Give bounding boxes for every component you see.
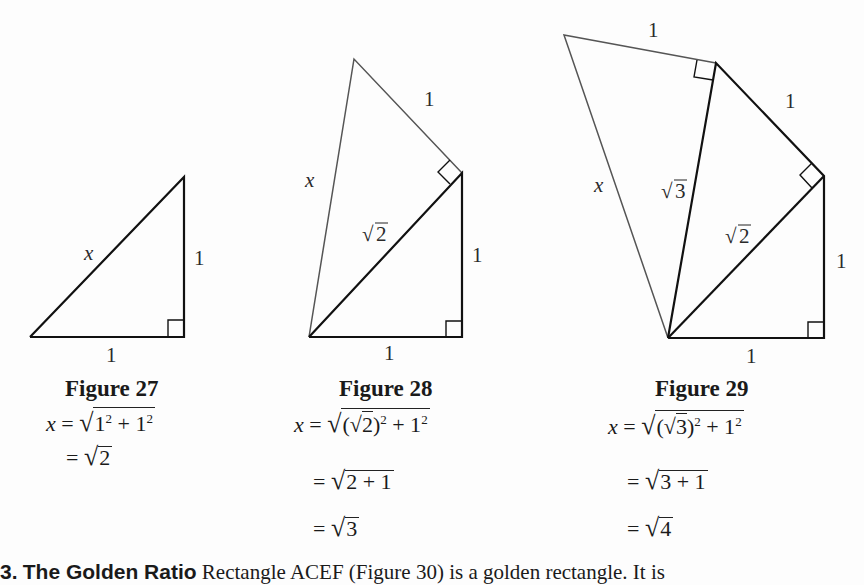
fig29-label-sqrt3-radical: √ — [661, 179, 673, 203]
next-section-heading-line: 3. The Golden Ratio Rectangle ACEF (Figu… — [0, 560, 665, 585]
fig27-equation-line1: x = √12 + 12 — [46, 407, 155, 437]
figure-28-diagram — [309, 59, 462, 337]
eq-equals: = — [309, 412, 321, 437]
radicand-term: + 1 — [706, 414, 735, 439]
fig28-equation-line1: x = √(√2)2 + 12 — [294, 408, 430, 438]
inner-radical-sign: √ — [350, 412, 362, 437]
fig27-equation-line2: = √2 — [66, 444, 112, 471]
radicand: 12 + 12 — [93, 407, 154, 435]
fig29-equation-line3: = √4 — [627, 515, 673, 542]
exponent: 2 — [421, 412, 428, 427]
fig28-label-bottom: 1 — [384, 341, 395, 365]
radicand: (√2)2 + 12 — [341, 408, 429, 436]
fig29-label-x: x — [593, 173, 604, 197]
section-heading: The Golden Ratio — [23, 560, 197, 583]
fig27-label-right: 1 — [194, 246, 205, 270]
radicand: 3 — [345, 517, 359, 540]
radicand-term: + 1 — [392, 412, 421, 437]
radical-sign: √ — [645, 466, 659, 495]
fig29-label-sqrt2: 2 — [739, 224, 750, 248]
radical-sign: √ — [79, 408, 93, 437]
fig27-label-bottom: 1 — [106, 343, 117, 367]
exponent: 2 — [694, 414, 701, 429]
figure-27-diagram — [30, 177, 184, 337]
radical-sign: √ — [641, 411, 655, 440]
radicand: 2 + 1 — [345, 470, 393, 493]
fig27-label-x: x — [83, 241, 94, 265]
fig28-equation-line3: = √3 — [313, 515, 359, 542]
fig29-label-right: 1 — [836, 249, 847, 273]
fig28-label-sqrt2: 2 — [376, 222, 387, 246]
fig29-label-bottom: 1 — [746, 344, 757, 368]
eq-equals: = — [627, 469, 639, 494]
figure-29-caption: Figure 29 — [655, 376, 748, 402]
radical-sign: √ — [84, 442, 98, 471]
eq-equals: = — [313, 516, 325, 541]
exponent: 2 — [380, 412, 387, 427]
radicand: 2 — [98, 446, 112, 469]
eq-var-x: x — [608, 414, 618, 439]
fig28-label-top: 1 — [424, 87, 435, 111]
fig29-label-top: 1 — [648, 18, 659, 42]
radical-sign: √ — [327, 409, 341, 438]
inner-radicand: 2 — [362, 411, 373, 437]
fig29-label-sqrt3: 3 — [675, 179, 686, 203]
radicand-term: 1 — [94, 411, 105, 436]
eq-var-x: x — [46, 411, 56, 436]
radicand-term: + 1 — [117, 411, 146, 436]
exponent: 2 — [146, 411, 153, 426]
eq-var-x: x — [294, 412, 304, 437]
section-body-text: Rectangle ACEF (Figure 30) is a golden r… — [202, 560, 665, 584]
radical-sign: √ — [331, 466, 345, 495]
exponent: 2 — [735, 414, 742, 429]
radical-sign: √ — [331, 513, 345, 542]
eq-equals: = — [61, 411, 73, 436]
fig29-equation-line2: = √3 + 1 — [627, 468, 708, 495]
inner-radicand: 3 — [676, 413, 687, 439]
radicand: 3 + 1 — [659, 470, 707, 493]
eq-equals: = — [66, 445, 78, 470]
fig28-label-sqrt2-radical: √ — [362, 222, 374, 246]
section-number: 3. — [0, 560, 18, 583]
figure-27-caption: Figure 27 — [65, 376, 158, 402]
radicand: (√3)2 + 12 — [655, 410, 743, 438]
fig28-label-x: x — [304, 168, 315, 192]
figure-28-caption: Figure 28 — [339, 376, 432, 402]
eq-equals: = — [627, 516, 639, 541]
fig29-label-upper-right: 1 — [785, 89, 796, 113]
inner-radical-sign: √ — [664, 414, 676, 439]
eq-equals: = — [623, 414, 635, 439]
radicand: 4 — [659, 517, 673, 540]
exponent: 2 — [105, 411, 112, 426]
fig28-label-right: 1 — [472, 243, 483, 267]
eq-equals: = — [313, 469, 325, 494]
fig29-label-sqrt2-radical: √ — [725, 224, 737, 248]
radical-sign: √ — [645, 513, 659, 542]
fig29-equation-line1: x = √(√3)2 + 12 — [608, 410, 744, 440]
fig28-equation-line2: = √2 + 1 — [313, 468, 394, 495]
